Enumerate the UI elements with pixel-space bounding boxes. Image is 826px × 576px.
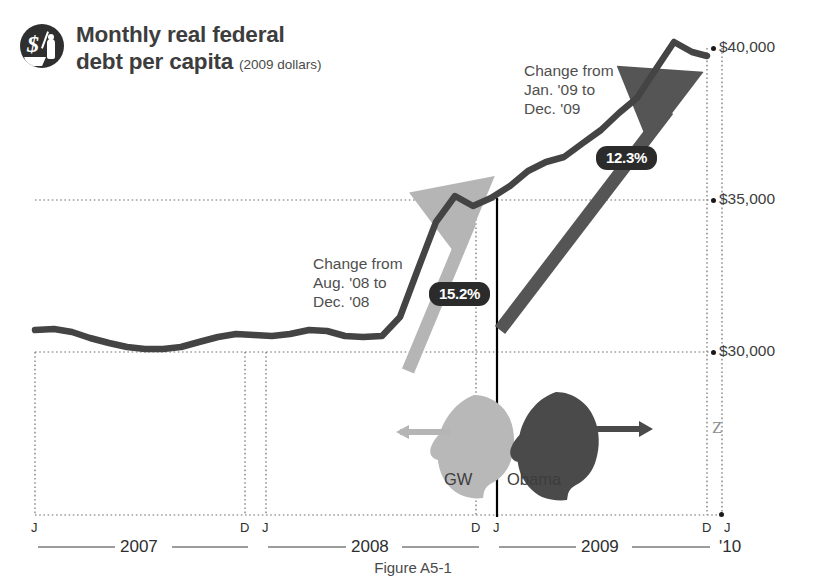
gw-change-annotation: Change from Aug. '08 to Dec. '08 [313, 255, 403, 312]
xtick-label-2009-dec: D [702, 520, 711, 535]
ytick-dot-35000 [711, 198, 716, 203]
z-artifact-mark: Z [712, 418, 722, 438]
ytick-label-40000: $40,000 [719, 38, 775, 56]
xtick-label-2007-dec: D [240, 520, 249, 535]
ytick-label-35000: $35,000 [719, 190, 775, 208]
ytick-dot-40000 [711, 46, 716, 51]
xtick-label-2010-jan: J [724, 520, 731, 535]
year-label-2010: '10 [719, 537, 741, 557]
ytick-label-30000: $30,000 [719, 342, 775, 360]
xtick-label-2008-jan: J [262, 520, 269, 535]
gw-label: GW [444, 470, 472, 489]
figure-caption: Figure A5-1 [0, 559, 826, 576]
ytick-dot-baseline [719, 512, 724, 517]
obama-change-annotation: Change from Jan. '09 to Dec. '09 [524, 62, 614, 119]
gw-change-badge: 15.2% [429, 282, 490, 306]
xtick-label-2009-jan: J [493, 520, 500, 535]
obama-change-badge: 12.3% [596, 146, 657, 170]
year-label-2009: 2009 [581, 537, 619, 557]
year-label-2007: 2007 [120, 537, 158, 557]
year-label-2008: 2008 [351, 537, 389, 557]
ytick-dot-30000 [711, 350, 716, 355]
xtick-label-2007-jan: J [31, 520, 38, 535]
arrow-right-icon [594, 421, 653, 437]
xtick-label-2008-dec: D [471, 520, 480, 535]
obama-label: Obama [507, 470, 561, 489]
